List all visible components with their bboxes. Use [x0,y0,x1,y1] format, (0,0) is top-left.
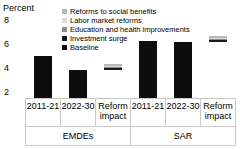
bar-emdes-2022-30 [69,70,87,98]
x-tick-emdes-reform-impact: Reform impact [96,99,131,126]
legend-label: Investment surge [70,35,128,43]
legend-label: Education and health improvements [70,26,190,34]
bar-emdes-2011-21 [34,56,52,98]
chart-legend: Reforms to social benefits Labor market … [62,7,190,52]
y-tick-8: 8 [4,15,22,25]
y-axis-unit-label: Percent [3,3,34,13]
x-tick-sar-2011-21: 2011-21 [131,99,166,126]
x-tick-sar-2022-30: 2022-30 [166,99,201,126]
stack-segment-investment-surge [104,68,122,70]
bar-chart: Percent 8 6 4 2 Reforms to social benefi… [0,0,240,149]
legend-item-investment-surge: Investment surge [62,34,190,43]
x-tick-sar-reform-impact: Reform impact [201,99,235,126]
x-tick-emdes-2011-21: 2011-21 [26,99,61,126]
x-tick-row: 2011-21 2022-30 Reform impact 2011-21 20… [26,99,235,127]
legend-item-baseline: Baseline [62,43,190,52]
legend-item-labor-market-reforms: Labor market reforms [62,16,190,25]
legend-swatch-icon [62,45,67,50]
x-group-emdes: EMDEs [26,127,131,145]
y-tick-6: 6 [4,39,22,49]
y-tick-4: 4 [4,63,22,73]
legend-swatch-icon [62,9,67,14]
stacked-bar-sar-reform-impact [209,36,227,42]
stacked-bar-emdes-reform-impact [104,64,122,70]
legend-swatch-icon [62,18,67,23]
legend-label: Reforms to social benefits [70,8,156,16]
legend-label: Labor market reforms [70,17,142,25]
legend-swatch-icon [62,36,67,41]
x-group-sar: SAR [131,127,235,145]
legend-label: Baseline [70,44,99,52]
x-tick-emdes-2022-30: 2022-30 [61,99,96,126]
x-group-row: EMDEs SAR [26,127,235,145]
legend-swatch-icon [62,27,67,32]
legend-item-reforms-to-social-benefits: Reforms to social benefits [62,7,190,16]
legend-item-education-and-health-improvements: Education and health improvements [62,25,190,34]
y-tick-2: 2 [4,87,22,97]
stack-segment-investment-surge [209,40,227,42]
x-axis-label-table: 2011-21 2022-30 Reform impact 2011-21 20… [25,98,236,146]
